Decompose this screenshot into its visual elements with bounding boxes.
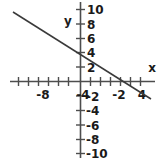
x-tick-label: -2 — [112, 88, 125, 102]
y-tick-label: 6 — [87, 32, 95, 46]
y-tick-labels-negative: -2 -4 -6 -8 -10 — [86, 90, 108, 162]
y-tick-label: 8 — [87, 18, 95, 32]
plotted-line — [13, 12, 151, 99]
chart-figure: -8 -4 -2 4 10 8 6 4 2 -2 -4 -6 -8 -10 y … — [0, 0, 163, 161]
y-tick-label: -10 — [86, 147, 108, 161]
y-tick-label: -2 — [86, 90, 99, 104]
x-axis-label: x — [148, 61, 156, 75]
y-tick-label: 4 — [87, 46, 95, 60]
y-tick-label: 10 — [87, 3, 104, 17]
y-axis-label: y — [64, 14, 72, 28]
x-tick-label: -8 — [36, 88, 49, 102]
axes-group — [10, 2, 155, 158]
y-tick-label: -4 — [86, 104, 99, 118]
y-tick-label: -8 — [86, 133, 99, 147]
y-tick-label: -6 — [86, 119, 99, 133]
coordinate-plane-plot: -8 -4 -2 4 10 8 6 4 2 -2 -4 -6 -8 -10 y … — [0, 0, 163, 161]
